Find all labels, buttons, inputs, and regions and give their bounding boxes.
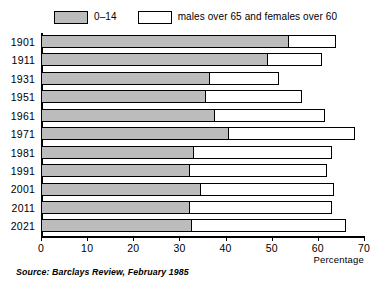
x-axis-line [41, 236, 364, 238]
y-axis-tick-label: 1991 [0, 162, 38, 180]
bar-segment-young [42, 36, 289, 47]
bar-row [41, 51, 364, 69]
y-axis-labels: 1901 1911 1931 1951 1961 1971 1981 1991 … [0, 33, 38, 236]
x-axis-tick [87, 236, 88, 241]
bar-row [41, 199, 364, 217]
bar-segment-young [42, 147, 194, 158]
stacked-bar [41, 201, 332, 214]
x-axis-tick-label: 10 [81, 243, 93, 254]
y-axis-tick-label: 1981 [0, 144, 38, 162]
bar-row [41, 144, 364, 162]
x-axis-tick [226, 236, 227, 241]
stacked-bar [41, 72, 279, 85]
legend-label-old: males over 65 and females over 60 [178, 12, 338, 22]
stacked-bar [41, 219, 346, 232]
source-note: Source: Barclays Review, February 1985 [16, 268, 189, 277]
x-axis-tick-label: 30 [173, 243, 185, 254]
bar-segment-young [42, 128, 229, 139]
bar-row [41, 70, 364, 88]
bar-segment-young [42, 73, 210, 84]
x-axis-tick-label: 50 [266, 243, 278, 254]
bar-segment-young [42, 54, 268, 65]
y-axis-tick-label: 1901 [0, 33, 38, 51]
x-axis-tick-label: 60 [312, 243, 324, 254]
bar-row [41, 125, 364, 143]
y-axis-tick-label: 2001 [0, 181, 38, 199]
x-axis-tick [364, 236, 365, 241]
bar-row [41, 217, 364, 235]
stacked-bar [41, 90, 302, 103]
y-axis-tick-label: 1971 [0, 125, 38, 143]
y-axis-tick-label: 1911 [0, 51, 38, 69]
bar-row [41, 107, 364, 125]
x-axis-tick [133, 236, 134, 241]
chart-legend: 0–14 males over 65 and females over 60 [54, 9, 337, 25]
legend-label-young: 0–14 [94, 12, 117, 22]
y-axis-tick-label: 1951 [0, 88, 38, 106]
x-axis-tick [179, 236, 180, 241]
stacked-bar [41, 146, 332, 159]
stacked-bar [41, 127, 355, 140]
legend-swatch-young [54, 11, 88, 24]
stacked-bar [41, 53, 322, 66]
bar-row [41, 33, 364, 51]
y-axis-tick-label: 1931 [0, 70, 38, 88]
bar-row [41, 88, 364, 106]
stacked-bar [41, 35, 336, 48]
x-axis-tick-label: 20 [127, 243, 139, 254]
x-axis-tick [318, 236, 319, 241]
y-axis-tick-label: 2011 [0, 199, 38, 217]
legend-swatch-old [138, 11, 172, 24]
x-axis-tick [272, 236, 273, 241]
bar-row [41, 181, 364, 199]
stacked-bar [41, 164, 327, 177]
stacked-bar [41, 183, 334, 196]
bar-row [41, 162, 364, 180]
x-axis-tick-label: 0 [38, 243, 44, 254]
x-axis-tick-label: 40 [220, 243, 232, 254]
y-axis-tick-label: 1961 [0, 107, 38, 125]
bar-segment-young [42, 110, 215, 121]
bar-segment-young [42, 184, 201, 195]
y-axis-tick-label: 2021 [0, 217, 38, 235]
legend-item-young: 0–14 [54, 11, 117, 24]
x-axis-tick-label: 70 [358, 243, 370, 254]
stacked-bar [41, 109, 325, 122]
bar-segment-young [42, 91, 206, 102]
bar-segment-young [42, 220, 192, 231]
bar-rows [41, 33, 364, 236]
x-axis-title: Percentage [313, 255, 364, 265]
legend-item-old: males over 65 and females over 60 [138, 11, 338, 24]
x-axis-tick [41, 236, 42, 241]
chart-page: 0–14 males over 65 and females over 60 1… [0, 0, 387, 283]
bar-segment-young [42, 202, 190, 213]
bar-segment-young [42, 165, 190, 176]
